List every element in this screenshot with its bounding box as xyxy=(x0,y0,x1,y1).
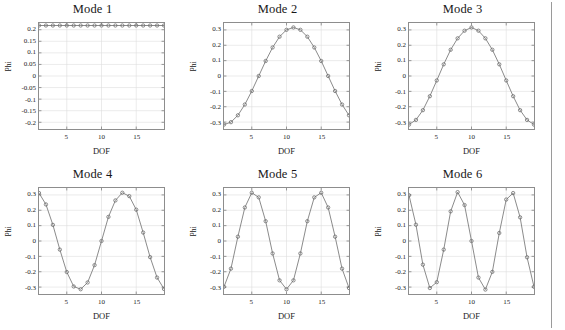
page-edge-artifact xyxy=(551,2,552,328)
x-tick-label: 5 xyxy=(249,133,253,141)
x-tick-label: 10 xyxy=(468,298,475,306)
grid-lines xyxy=(39,23,164,129)
grid-lines xyxy=(224,188,349,294)
x-tick-label: 10 xyxy=(98,133,105,141)
axes-box xyxy=(223,22,350,130)
x-tick-label: 15 xyxy=(318,298,325,306)
axes-box xyxy=(223,187,350,295)
x-tick-label: 5 xyxy=(434,133,438,141)
x-tick-label: 5 xyxy=(64,133,68,141)
x-tick-label: 15 xyxy=(133,133,140,141)
plot-panel-mode-2: Mode 2PhiDOF0.30.20.10-0.1-0.2-0.351015 xyxy=(185,0,370,165)
x-tick-label: 10 xyxy=(468,133,475,141)
grid-lines xyxy=(409,23,534,129)
grid-lines xyxy=(224,23,349,129)
x-tick-label: 5 xyxy=(249,298,253,306)
x-tick-label: 15 xyxy=(318,133,325,141)
plot-panel-mode-1: Mode 1PhiDOF0.20.150.10.050-0.05-0.1-0.1… xyxy=(0,0,185,165)
x-tick-label: 10 xyxy=(283,133,290,141)
x-tick-label: 5 xyxy=(64,298,68,306)
plot-panel-mode-6: Mode 6PhiDOF0.30.20.10-0.1-0.2-0.351015 xyxy=(370,165,555,330)
x-tick-label: 10 xyxy=(98,298,105,306)
x-tick-label: 10 xyxy=(283,298,290,306)
x-tick-label: 15 xyxy=(503,133,510,141)
x-tick-label: 15 xyxy=(503,298,510,306)
mode-shape-figure: Mode 1PhiDOF0.20.150.10.050-0.05-0.1-0.1… xyxy=(0,0,565,330)
x-tick-label: 15 xyxy=(133,298,140,306)
x-tick-label: 5 xyxy=(434,298,438,306)
axes-box xyxy=(38,22,165,130)
plot-panel-mode-4: Mode 4PhiDOF0.30.20.10-0.1-0.2-0.351015 xyxy=(0,165,185,330)
plot-panel-mode-5: Mode 5PhiDOF0.30.20.10-0.1-0.2-0.351015 xyxy=(185,165,370,330)
axes-box xyxy=(408,22,535,130)
axes-box xyxy=(408,187,535,295)
plot-panel-mode-3: Mode 3PhiDOF0.30.20.10-0.1-0.2-0.351015 xyxy=(370,0,555,165)
axes-box xyxy=(38,187,165,295)
